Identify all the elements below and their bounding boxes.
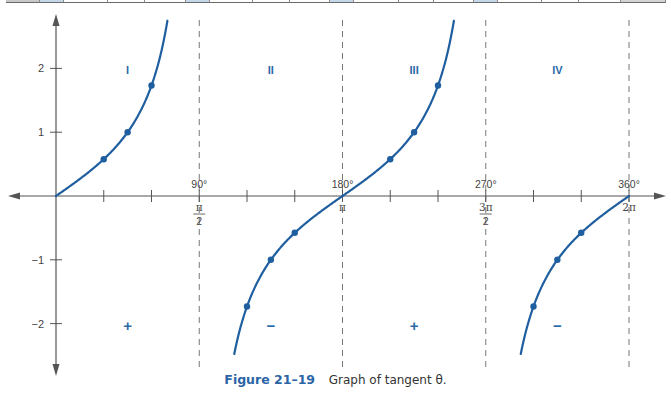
data-point xyxy=(292,230,298,236)
data-point xyxy=(578,230,584,236)
radian-label: 3π xyxy=(479,201,493,213)
data-point xyxy=(530,303,536,309)
tangent-branch xyxy=(56,21,167,196)
data-point xyxy=(148,82,154,88)
quadrant-label: IV xyxy=(552,64,563,76)
tangent-branch xyxy=(343,21,454,196)
quadrant-sign: − xyxy=(553,317,562,334)
data-point xyxy=(387,156,393,162)
radian-denominator: 2 xyxy=(483,215,489,227)
radian-label: 2π xyxy=(622,201,636,213)
y-tick-label: −1 xyxy=(31,254,44,266)
data-point xyxy=(554,257,560,263)
tangent-graph: 21−1−290°π2180°π270°3π2360°2π I+II−III+I… xyxy=(0,0,671,393)
data-point xyxy=(124,129,130,135)
degree-label: 180° xyxy=(332,178,354,190)
radian-label: π xyxy=(339,201,346,213)
data-point xyxy=(101,156,107,162)
axes xyxy=(8,14,666,376)
data-point xyxy=(411,129,417,135)
y-tick-label: 2 xyxy=(38,62,44,74)
quadrant-sign: − xyxy=(266,317,275,334)
radian-denominator: 2 xyxy=(196,215,202,227)
degree-label: 360° xyxy=(618,178,640,190)
quadrant-labels: I+II−III+IV− xyxy=(123,64,563,334)
figure-number: Figure 21–19 xyxy=(224,372,315,387)
x-axis-left-arrow-icon xyxy=(8,193,20,200)
quadrant-sign: + xyxy=(410,317,419,334)
radian-label: π xyxy=(196,201,203,213)
data-point xyxy=(268,257,274,263)
figure-caption: Figure 21–19 Graph of tangent θ. xyxy=(0,372,671,387)
y-tick-label: −2 xyxy=(31,318,44,330)
y-axis-up-arrow-icon xyxy=(53,14,60,26)
y-tick-label: 1 xyxy=(38,126,44,138)
degree-label: 90° xyxy=(191,178,207,190)
tangent-branch xyxy=(521,196,629,354)
data-point xyxy=(435,82,441,88)
quadrant-label: III xyxy=(410,64,419,76)
data-point xyxy=(244,303,250,309)
x-axis-right-arrow-icon xyxy=(654,193,666,200)
degree-label: 270° xyxy=(475,178,497,190)
quadrant-label: I xyxy=(126,64,129,76)
quadrant-label: II xyxy=(268,64,274,76)
figure-title: Graph of tangent θ. xyxy=(329,373,447,387)
quadrant-sign: + xyxy=(123,317,132,334)
tangent-branch xyxy=(234,196,342,354)
